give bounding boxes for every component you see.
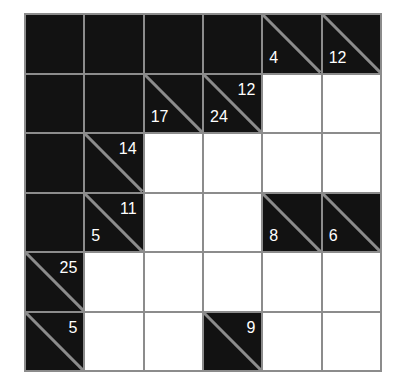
across-clue: 14 bbox=[119, 141, 137, 157]
block-cell-r0-c0 bbox=[26, 15, 83, 73]
clue-cell-r3-c5: 6 bbox=[323, 194, 380, 252]
down-clue: 12 bbox=[329, 50, 347, 66]
entry-cell-r4-c4[interactable] bbox=[263, 253, 320, 311]
clue-cell-r1-c2: 17 bbox=[145, 75, 202, 133]
block-cell-r0-c3 bbox=[204, 15, 261, 73]
entry-cell-r3-c2[interactable] bbox=[145, 194, 202, 252]
down-clue: 6 bbox=[329, 228, 338, 244]
across-clue: 12 bbox=[238, 82, 256, 98]
clue-cell-r3-c1: 5 11 bbox=[85, 194, 142, 252]
clue-cell-r5-c0: 5 bbox=[26, 313, 83, 371]
down-clue: 17 bbox=[151, 109, 169, 125]
kakuro-board: 4 12 17 24 12 14 5 11 8 bbox=[24, 13, 382, 372]
across-clue: 11 bbox=[120, 201, 137, 217]
clue-cell-r0-c4: 4 bbox=[263, 15, 320, 73]
entry-cell-r1-c4[interactable] bbox=[263, 75, 320, 133]
entry-cell-r2-c4[interactable] bbox=[263, 134, 320, 192]
entry-cell-r4-c1[interactable] bbox=[85, 253, 142, 311]
block-cell-r1-c0 bbox=[26, 75, 83, 133]
clue-cell-r3-c4: 8 bbox=[263, 194, 320, 252]
entry-cell-r1-c5[interactable] bbox=[323, 75, 380, 133]
entry-cell-r4-c5[interactable] bbox=[323, 253, 380, 311]
down-clue: 4 bbox=[269, 50, 278, 66]
clue-cell-r2-c1: 14 bbox=[85, 134, 142, 192]
block-cell-r0-c1 bbox=[85, 15, 142, 73]
entry-cell-r5-c4[interactable] bbox=[263, 313, 320, 371]
clue-cell-r4-c0: 25 bbox=[26, 253, 83, 311]
entry-cell-r5-c1[interactable] bbox=[85, 313, 142, 371]
clue-cell-r0-c5: 12 bbox=[323, 15, 380, 73]
down-clue: 8 bbox=[269, 228, 278, 244]
across-clue: 5 bbox=[68, 320, 77, 336]
clue-cell-r5-c3: 9 bbox=[204, 313, 261, 371]
entry-cell-r2-c2[interactable] bbox=[145, 134, 202, 192]
across-clue: 9 bbox=[246, 320, 255, 336]
block-cell-r2-c0 bbox=[26, 134, 83, 192]
entry-cell-r4-c3[interactable] bbox=[204, 253, 261, 311]
down-clue: 5 bbox=[91, 228, 100, 244]
entry-cell-r5-c2[interactable] bbox=[145, 313, 202, 371]
across-clue: 25 bbox=[60, 260, 78, 276]
block-cell-r3-c0 bbox=[26, 194, 83, 252]
block-cell-r0-c2 bbox=[145, 15, 202, 73]
entry-cell-r2-c5[interactable] bbox=[323, 134, 380, 192]
down-clue: 24 bbox=[210, 109, 228, 125]
entry-cell-r2-c3[interactable] bbox=[204, 134, 261, 192]
block-cell-r1-c1 bbox=[85, 75, 142, 133]
entry-cell-r4-c2[interactable] bbox=[145, 253, 202, 311]
entry-cell-r5-c5[interactable] bbox=[323, 313, 380, 371]
clue-cell-r1-c3: 24 12 bbox=[204, 75, 261, 133]
entry-cell-r3-c3[interactable] bbox=[204, 194, 261, 252]
